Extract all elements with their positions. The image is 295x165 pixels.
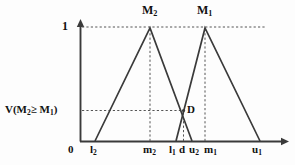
fuzzy-comparison-figure: 1 0 V(M2≥ M1) M2 M1 D l2 m2 l1 d u2 m1 u… — [0, 0, 295, 165]
plot-canvas — [0, 0, 295, 165]
triangle-m2 — [95, 28, 192, 141]
x-tick-u2: u2 — [189, 144, 199, 157]
x-tick-l2: l2 — [90, 144, 97, 157]
triangle-m1 — [176, 28, 260, 141]
x-tick-u1: u1 — [252, 144, 262, 157]
x-tick-d: d — [179, 144, 185, 155]
y-axis-top-label: 1 — [62, 20, 68, 32]
x-axis-arrow-icon — [281, 138, 289, 145]
peak-label-m1: M1 — [197, 4, 212, 18]
axes-group — [77, 19, 289, 145]
y-axis-arrow-icon — [77, 19, 84, 27]
x-tick-l1: l1 — [169, 144, 176, 157]
intersection-label-d: D — [187, 104, 195, 115]
origin-label: 0 — [68, 144, 74, 155]
possibility-degree-label: V(M2≥ M1) — [5, 104, 57, 117]
peak-label-m2: M2 — [142, 4, 157, 18]
intersection-point-d — [182, 109, 185, 112]
x-tick-m1: m1 — [204, 144, 217, 157]
x-tick-m2: m2 — [143, 144, 156, 157]
